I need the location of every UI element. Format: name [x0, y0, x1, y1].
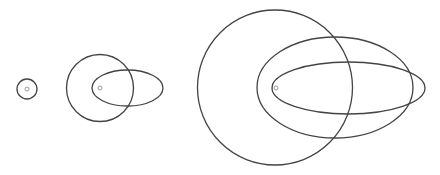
conic-diagram	[0, 0, 440, 175]
